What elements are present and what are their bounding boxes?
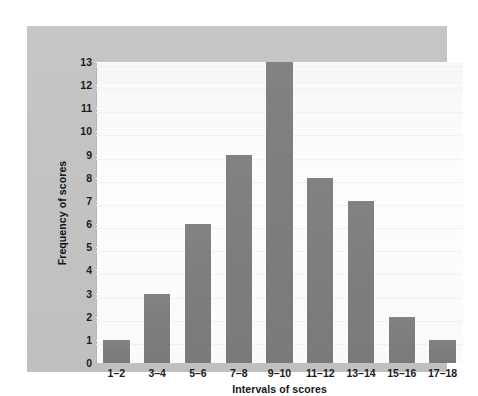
chart-figure: Frequency of scores 012345678910111213 1… bbox=[0, 0, 478, 396]
y-axis-tick-label: 13 bbox=[64, 57, 92, 68]
y-axis-tick-label: 9 bbox=[64, 149, 92, 160]
y-axis-tick-label: 6 bbox=[64, 219, 92, 230]
y-axis-tick-label: 7 bbox=[64, 196, 92, 207]
bar bbox=[144, 294, 170, 363]
bar-series bbox=[96, 62, 463, 363]
plot-area bbox=[96, 62, 463, 363]
bar bbox=[226, 155, 252, 363]
y-axis-tick-label: 3 bbox=[64, 288, 92, 299]
y-axis-tick-label: 5 bbox=[64, 242, 92, 253]
y-axis-tick-label: 8 bbox=[64, 173, 92, 184]
y-axis-tick-labels: 012345678910111213 bbox=[60, 62, 92, 363]
x-axis-tick-label: 17–18 bbox=[428, 366, 457, 380]
y-axis-tick-label: 11 bbox=[64, 103, 92, 114]
x-axis-tick-label: 13–14 bbox=[346, 366, 375, 380]
bar bbox=[103, 340, 129, 363]
bar bbox=[348, 201, 374, 363]
y-axis-tick-label: 4 bbox=[64, 265, 92, 276]
chart-panel: Frequency of scores 012345678910111213 1… bbox=[27, 26, 447, 372]
x-axis-tick-labels: 1–23–45–67–89–1011–1213–1415–1617–18 bbox=[96, 366, 463, 382]
y-axis-tick-label: 12 bbox=[64, 80, 92, 91]
x-axis-tick-label: 7–8 bbox=[230, 366, 248, 380]
x-axis-tick-label: 1–2 bbox=[108, 366, 126, 380]
x-axis-title: Intervals of scores bbox=[96, 383, 463, 395]
y-axis-tick-label: 10 bbox=[64, 126, 92, 137]
x-axis-tick-label: 11–12 bbox=[306, 366, 335, 380]
x-axis-tick-label: 3–4 bbox=[148, 366, 166, 380]
bar bbox=[266, 62, 292, 363]
bar bbox=[429, 340, 455, 363]
bar bbox=[185, 224, 211, 363]
y-axis-tick-label: 1 bbox=[64, 335, 92, 346]
bar bbox=[307, 178, 333, 363]
y-axis-tick-label: 2 bbox=[64, 311, 92, 322]
bar bbox=[389, 317, 415, 363]
x-axis-tick-label: 15–16 bbox=[387, 366, 416, 380]
x-axis-tick-label: 9–10 bbox=[268, 366, 291, 380]
y-axis-tick-label: 0 bbox=[64, 358, 92, 369]
x-axis-tick-label: 5–6 bbox=[189, 366, 207, 380]
